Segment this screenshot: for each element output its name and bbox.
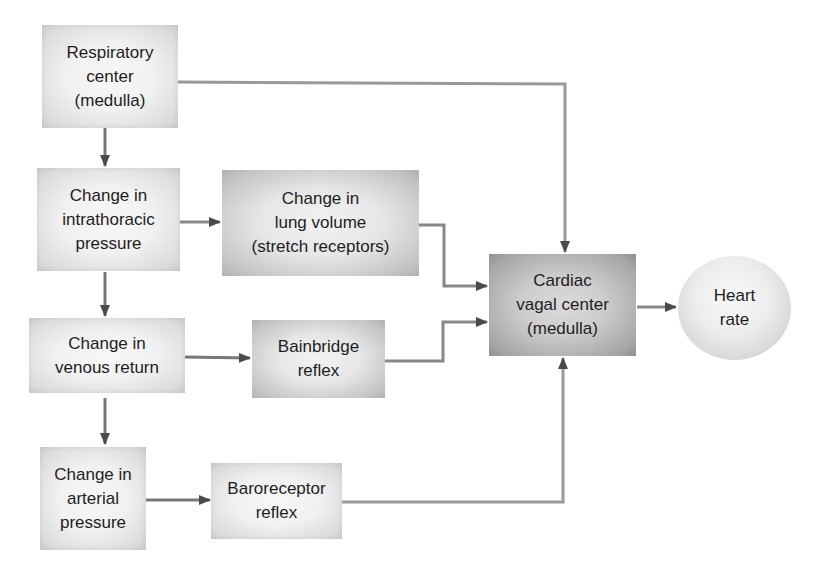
node-cardiac-vagal-center: Cardiac vagal center (medulla) [489,254,636,356]
flowchart-diagram: Respiratory center (medulla) Change in i… [0,0,823,577]
node-heart-rate: Heart rate [678,256,791,360]
node-arterial-pressure: Change in arterial pressure [40,447,146,550]
node-intrathoracic-pressure: Change in intrathoracic pressure [37,168,180,271]
node-lung-volume: Change in lung volume (stretch receptors… [222,170,419,276]
node-venous-return: Change in venous return [29,318,185,393]
node-respiratory-center: Respiratory center (medulla) [42,25,178,128]
node-baroreceptor-reflex: Baroreceptor reflex [211,463,342,539]
arrow-bainbridge-to-cardiac-vagal [385,322,487,361]
node-bainbridge-reflex: Bainbridge reflex [252,320,385,398]
arrow-lung-volume-to-cardiac-vagal [419,225,487,286]
arrow-venous-return-to-bainbridge [185,357,250,358]
